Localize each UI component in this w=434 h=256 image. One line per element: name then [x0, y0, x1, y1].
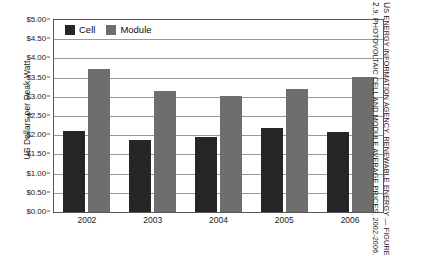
y-axis-tick-label: $3.00 [26, 91, 46, 100]
x-axis-tick-label: 2003 [143, 215, 162, 225]
source-caption: US Energy Information Agency, Renewable … [352, 0, 392, 241]
y-axis-tick-mark [47, 134, 50, 135]
bar-cell-2003 [129, 140, 151, 212]
y-axis-tick-mark [47, 153, 50, 154]
x-axis-tick-label: 2002 [77, 215, 96, 225]
y-axis-tick-label: $1.50 [26, 149, 46, 158]
bar-group [251, 20, 317, 212]
y-axis-tick-label: $5.00 [26, 15, 46, 24]
y-axis-tick-mark [47, 57, 50, 58]
bar-cell-2006 [327, 132, 349, 212]
bar-group [120, 20, 186, 212]
legend-item-cell: Cell [65, 24, 95, 35]
legend-label-cell: Cell [79, 24, 95, 35]
x-axis-tick-labels: 20022003200420052006 [54, 215, 383, 231]
bar-cell-2004 [195, 137, 217, 212]
x-axis-tick-label: 2005 [275, 215, 294, 225]
bar-group [54, 20, 120, 212]
y-axis-tick-mark [47, 211, 50, 212]
source-caption-line-1: US Energy Information Agency, Renewable … [381, 2, 392, 256]
y-axis-tick-mark [47, 115, 50, 116]
y-axis-tick-mark [47, 191, 50, 192]
y-axis-tick-label: $0.00 [26, 207, 46, 216]
y-axis-tick-mark [47, 172, 50, 173]
y-axis-tick-label: $2.50 [26, 111, 46, 120]
y-axis-tick-label: $4.50 [26, 34, 46, 43]
bar-cell-2002 [63, 131, 85, 212]
y-axis-tick-label: $1.00 [26, 168, 46, 177]
bar-module-2005 [286, 89, 308, 212]
bar-module-2003 [154, 91, 176, 212]
y-axis-tick-label: $4.00 [26, 53, 46, 62]
legend-item-module: Module [106, 24, 151, 35]
y-axis-tick-label: $0.50 [26, 187, 46, 196]
bars-layer [54, 20, 383, 212]
y-axis-tick-mark [47, 95, 50, 96]
y-axis-tick-mark [47, 38, 50, 39]
bar-cell-2005 [261, 128, 283, 212]
y-axis-tick-labels: $0.00$0.50$1.00$1.50$2.00$2.50$3.00$3.50… [0, 19, 50, 213]
y-axis-tick-label: $3.50 [26, 72, 46, 81]
legend-swatch-module-icon [106, 25, 116, 35]
legend-swatch-cell-icon [65, 25, 75, 35]
bar-group [186, 20, 252, 212]
legend-label-module: Module [120, 24, 151, 35]
bar-module-2002 [88, 69, 110, 212]
bar-module-2004 [220, 96, 242, 212]
y-axis-tick-mark [47, 19, 50, 20]
y-axis-tick-label: $2.00 [26, 130, 46, 139]
source-caption-line-2: 2.9, Photovoltaic Cell and Module Averag… [370, 2, 381, 255]
chart-legend: Cell Module [62, 23, 155, 36]
y-axis-tick-mark [47, 76, 50, 77]
x-axis-tick-label: 2004 [209, 215, 228, 225]
